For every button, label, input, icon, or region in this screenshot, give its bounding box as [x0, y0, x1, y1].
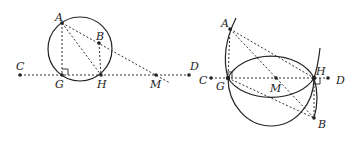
segment-am	[62, 23, 170, 83]
right-figure: A B C G M H D	[199, 17, 345, 131]
point-g	[226, 76, 230, 80]
segment-bh	[99, 43, 101, 75]
point-m	[154, 73, 158, 77]
segment-ab	[230, 29, 314, 118]
label-a: A	[220, 17, 229, 30]
label-c: C	[16, 60, 25, 73]
circle	[48, 17, 112, 81]
point-c	[18, 73, 22, 77]
label-b: B	[317, 118, 326, 131]
point-d	[326, 76, 330, 80]
geometry-diagram: A B C G H M D A B C G M H	[0, 0, 354, 159]
label-d: D	[335, 74, 345, 87]
point-g	[60, 73, 64, 77]
segment-ah	[230, 29, 314, 78]
point-b	[312, 116, 316, 120]
point-d	[187, 73, 191, 77]
point-c	[209, 76, 213, 80]
arc-b	[314, 48, 320, 118]
label-m: M	[269, 82, 282, 95]
label-c: C	[199, 74, 208, 87]
label-a: A	[54, 11, 63, 24]
label-d: D	[189, 60, 199, 73]
point-h	[99, 73, 103, 77]
label-g: G	[55, 78, 64, 91]
point-m	[274, 76, 278, 80]
label-g: G	[216, 80, 225, 93]
label-b: B	[95, 30, 104, 43]
left-figure: A B C G H M D	[16, 11, 199, 91]
label-h: H	[315, 65, 326, 78]
label-h: H	[96, 78, 107, 91]
label-m: M	[149, 78, 162, 91]
